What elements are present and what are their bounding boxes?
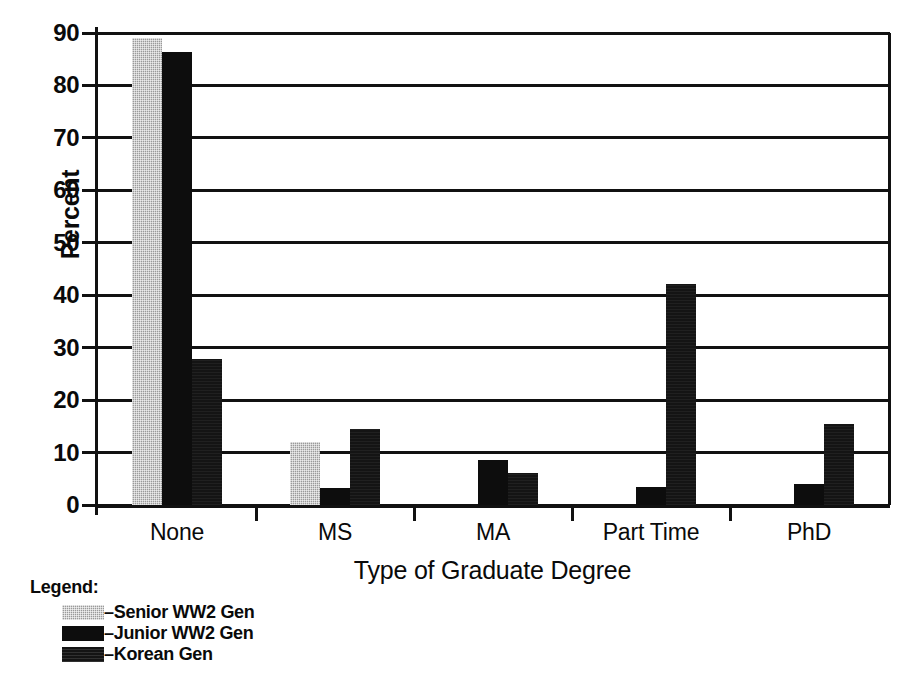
- x-axis-line: [95, 505, 890, 508]
- legend-label: –Junior WW2 Gen: [104, 623, 254, 644]
- legend-label: –Senior WW2 Gen: [104, 602, 255, 623]
- legend-swatch: [62, 647, 104, 662]
- y-tick-mark: [82, 241, 95, 244]
- plot-area: 0102030405060708090: [95, 33, 890, 505]
- bar: [162, 52, 192, 505]
- x-category-label: MS: [318, 519, 352, 546]
- y-tick-label: 0: [66, 491, 79, 519]
- legend-swatch: [62, 605, 104, 620]
- y-tick-mark: [82, 84, 95, 87]
- y-tick-label: 30: [53, 334, 79, 362]
- legend-items: –Senior WW2 Gen–Junior WW2 Gen–Korean Ge…: [26, 602, 326, 665]
- y-tick-label: 90: [53, 19, 79, 47]
- legend-item: –Korean Gen: [62, 644, 326, 665]
- y-tick-label: 80: [53, 71, 79, 99]
- x-tick-mark: [571, 508, 574, 521]
- bar: [192, 359, 222, 505]
- x-tick-mark: [413, 508, 416, 521]
- x-category-label: MA: [476, 519, 510, 546]
- y-tick-label: 60: [53, 176, 79, 204]
- bar: [290, 442, 320, 505]
- x-category-label: Part Time: [603, 519, 700, 546]
- bar: [508, 473, 538, 506]
- y-tick-mark: [82, 189, 95, 192]
- bar: [350, 429, 380, 505]
- y-tick-mark: [82, 136, 95, 139]
- y-tick-mark: [82, 399, 95, 402]
- legend-item: –Junior WW2 Gen: [62, 623, 326, 644]
- y-tick-label: 10: [53, 439, 79, 467]
- bar: [132, 38, 162, 505]
- y-tick-mark: [82, 451, 95, 454]
- y-tick-label: 70: [53, 124, 79, 152]
- bars-group: [98, 33, 888, 505]
- bar-chart-figure: Percent 0102030405060708090 NoneMSMAPart…: [0, 0, 924, 679]
- bar: [636, 487, 666, 505]
- legend-item: –Senior WW2 Gen: [62, 602, 326, 623]
- legend-swatch: [62, 626, 104, 641]
- bar: [666, 284, 696, 505]
- y-tick-mark: [82, 346, 95, 349]
- y-tick-label: 50: [53, 229, 79, 257]
- x-tick-mark: [729, 508, 732, 521]
- legend: Legend: –Senior WW2 Gen–Junior WW2 Gen–K…: [26, 577, 326, 665]
- bar: [320, 488, 350, 505]
- x-tick-mark: [255, 508, 258, 521]
- legend-title: Legend:: [26, 577, 326, 598]
- bar: [478, 460, 508, 505]
- plot-right-border: [888, 33, 891, 505]
- y-tick-label: 20: [53, 386, 79, 414]
- x-category-label: PhD: [787, 519, 831, 546]
- y-tick-label: 40: [53, 281, 79, 309]
- bar: [824, 424, 854, 505]
- x-category-label: None: [150, 519, 204, 546]
- bar: [794, 484, 824, 505]
- y-tick-mark: [82, 32, 95, 35]
- y-tick-mark: [82, 504, 95, 507]
- y-tick-mark: [82, 294, 95, 297]
- legend-label: –Korean Gen: [104, 644, 213, 665]
